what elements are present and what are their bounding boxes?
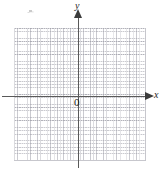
y-axis-line	[78, 16, 79, 168]
coordinate-grid-figure: y x 0	[0, 0, 163, 173]
origin-label: 0	[74, 97, 80, 108]
scan-speck-icon	[27, 9, 34, 15]
x-axis-arrowhead-icon	[145, 92, 154, 100]
x-axis-label: x	[154, 90, 158, 100]
scan-speck-artifact	[27, 1, 34, 7]
y-axis-label: y	[75, 1, 79, 11]
grid-bottom-border	[14, 160, 146, 161]
grid-area	[14, 28, 146, 160]
